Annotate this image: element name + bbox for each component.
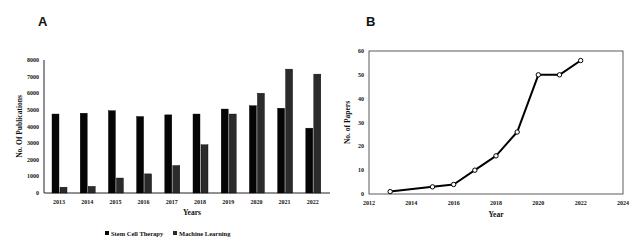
x-tick-label: 2012	[363, 200, 375, 206]
bar-stem-cell-therapy-2019	[221, 109, 228, 193]
y-tick-label: 8000	[27, 57, 39, 63]
bar-machine-learning-2013	[60, 187, 67, 193]
data-point-2021	[557, 73, 561, 77]
bar-machine-learning-2019	[229, 114, 236, 193]
y-tick-label: 30	[358, 120, 364, 126]
x-tick-label: 2022	[575, 200, 587, 206]
y-tick-label: 3000	[27, 140, 39, 146]
y-tick-label: 40	[358, 96, 364, 102]
bar-machine-learning-2016	[145, 174, 152, 193]
x-tick-label: 2013	[53, 199, 65, 205]
y-axis-title: No. Of Publications	[15, 95, 24, 158]
x-tick-label: 2020	[250, 199, 262, 205]
x-tick-label: 2022	[307, 199, 319, 205]
data-point-2020	[536, 73, 540, 77]
x-tick-label: 2018	[490, 200, 502, 206]
bar-machine-learning-2014	[88, 186, 95, 193]
y-tick-label: 20	[358, 143, 364, 149]
data-point-2018	[494, 154, 498, 158]
y-tick-label: 7000	[27, 74, 39, 80]
bar-stem-cell-therapy-2016	[137, 117, 144, 193]
x-tick-label: 2016	[138, 199, 150, 205]
data-point-2017	[473, 168, 477, 172]
x-tick-label: 2016	[448, 200, 460, 206]
x-axis-title: Year	[489, 210, 505, 219]
data-point-2015	[430, 185, 434, 189]
y-tick-label: 2000	[27, 157, 39, 163]
legend-label-machine-learning: Machine Learning	[179, 230, 231, 237]
x-tick-label: 2014	[81, 199, 93, 205]
panel-label-b: B	[366, 14, 375, 29]
bar-stem-cell-therapy-2015	[108, 111, 115, 193]
y-tick-label: 10	[358, 167, 364, 173]
y-tick-label: 50	[358, 72, 364, 78]
chart-a-publications-bar: 0100020003000400050006000700080002013201…	[0, 0, 330, 245]
data-point-2016	[451, 182, 455, 186]
bar-stem-cell-therapy-2017	[165, 115, 172, 193]
y-tick-label: 60	[358, 48, 364, 54]
y-axis-title: No. of Papers	[343, 101, 352, 144]
bar-machine-learning-2015	[116, 178, 123, 193]
data-point-2019	[515, 130, 519, 134]
data-point-2022	[578, 58, 582, 62]
bar-machine-learning-2022	[314, 74, 321, 193]
bar-machine-learning-2020	[257, 93, 264, 193]
x-tick-label: 2014	[405, 200, 417, 206]
y-tick-label: 5000	[27, 107, 39, 113]
legend-swatch-stem-cell-therapy	[105, 231, 109, 235]
x-tick-label: 2024	[617, 200, 629, 206]
y-tick-label: 0	[361, 191, 364, 197]
bar-stem-cell-therapy-2013	[52, 114, 59, 193]
y-tick-label: 0	[36, 190, 39, 196]
plot-frame	[369, 51, 623, 194]
bar-stem-cell-therapy-2020	[249, 106, 256, 193]
bar-machine-learning-2018	[201, 145, 208, 193]
bar-machine-learning-2017	[173, 166, 180, 193]
x-axis-title: Years	[183, 208, 201, 217]
y-tick-label: 1000	[27, 173, 39, 179]
bar-stem-cell-therapy-2014	[80, 113, 87, 193]
data-point-2013	[388, 189, 392, 193]
y-tick-label: 4000	[27, 124, 39, 130]
bar-stem-cell-therapy-2021	[278, 108, 285, 193]
y-tick-label: 6000	[27, 90, 39, 96]
series-line-papers	[390, 61, 581, 192]
legend-swatch-machine-learning	[173, 231, 177, 235]
x-tick-label: 2015	[109, 199, 121, 205]
legend-label-stem-cell-therapy: Stem Cell Therapy	[111, 230, 164, 237]
bar-machine-learning-2021	[286, 69, 293, 193]
x-tick-label: 2019	[222, 199, 234, 205]
bar-stem-cell-therapy-2018	[193, 114, 200, 193]
bar-stem-cell-therapy-2022	[306, 128, 313, 193]
x-tick-label: 2018	[194, 199, 206, 205]
x-tick-label: 2017	[166, 199, 178, 205]
x-tick-label: 2020	[532, 200, 544, 206]
x-tick-label: 2021	[279, 199, 291, 205]
